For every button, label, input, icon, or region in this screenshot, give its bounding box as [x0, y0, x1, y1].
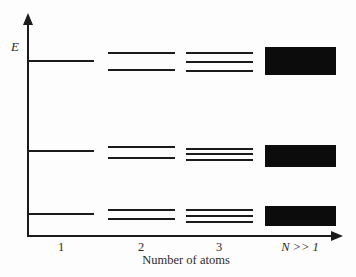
energy-level-line-middle-level [186, 159, 253, 162]
energy-level-line-lower-level [186, 221, 253, 224]
energy-level-line-middle-level [186, 153, 253, 156]
energy-level-line-upper-level [186, 70, 253, 73]
energy-level-line-middle-level [28, 150, 94, 153]
x-axis-label: Number of atoms [142, 253, 229, 268]
energy-level-line-lower-level [108, 209, 175, 212]
energy-level-line-lower-level [186, 215, 253, 218]
energy-level-line-middle-level [108, 146, 175, 149]
energy-level-line-lower-level [28, 213, 94, 216]
energy-level-line-middle-level [186, 148, 253, 151]
energy-level-line-upper-level [108, 52, 175, 55]
energy-level-line-upper-level [108, 69, 175, 72]
plot-area [0, 0, 356, 277]
energy-band-lower-level [265, 206, 336, 226]
energy-band-middle-level [265, 145, 336, 167]
energy-band-upper-level [265, 47, 336, 75]
x-tick-label-n-much-greater-than-1: N >> 1 [281, 240, 319, 255]
energy-level-line-upper-level [186, 52, 253, 55]
x-tick-label-1: 1 [58, 240, 64, 255]
energy-level-line-upper-level [28, 60, 94, 63]
energy-level-line-lower-level [186, 209, 253, 212]
energy-level-line-lower-level [108, 218, 175, 221]
energy-level-line-middle-level [108, 157, 175, 160]
energy-level-line-upper-level [186, 61, 253, 64]
energy-band-formation-diagram: E 1 2 3 N >> 1 Number of atoms [0, 0, 356, 277]
